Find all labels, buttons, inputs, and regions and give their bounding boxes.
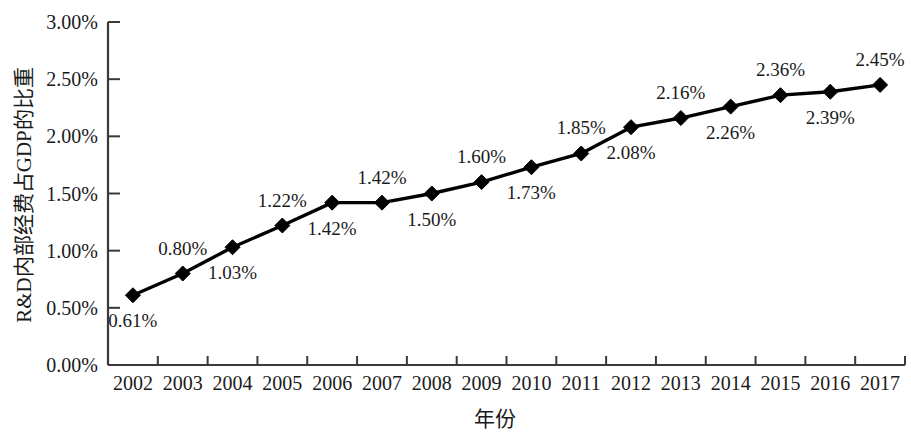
data-point-marker [673, 111, 688, 126]
data-series [125, 77, 887, 302]
data-point-marker [574, 146, 589, 161]
axes [108, 22, 905, 365]
data-point-marker [524, 160, 539, 175]
line-chart: R&D内部经费占GDP的比重 年份 0.00%0.50%1.00%1.50%2.… [0, 0, 911, 432]
data-point-marker [873, 77, 888, 92]
data-point-marker [773, 88, 788, 103]
data-point-marker [275, 218, 290, 233]
data-point-marker [723, 99, 738, 114]
data-point-marker [624, 120, 639, 135]
data-point-marker [474, 175, 489, 190]
data-point-marker [175, 266, 190, 281]
data-point-marker [823, 84, 838, 99]
series-line [133, 85, 880, 295]
data-point-marker [325, 195, 340, 210]
data-point-marker [424, 186, 439, 201]
plot-surface [0, 0, 911, 432]
data-point-marker [125, 288, 140, 303]
data-point-marker [225, 240, 240, 255]
data-point-marker [374, 195, 389, 210]
